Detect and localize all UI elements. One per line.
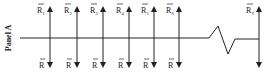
arrows <box>50 9 259 65</box>
top-label-6: R6 <box>166 4 175 16</box>
svg-text:2: 2 <box>70 11 72 16</box>
bottom-label-1: R <box>39 59 45 70</box>
timeline-diagram: Panel A R1 R2 R3 R4 R5 R6 RT R R R R R R <box>0 0 268 74</box>
svg-text:5: 5 <box>147 11 150 16</box>
svg-text:1: 1 <box>43 11 45 16</box>
top-label-4: R4 <box>116 4 125 16</box>
top-labels: R1 R2 R3 R4 R5 R6 RT <box>37 4 255 16</box>
top-label-1: R1 <box>37 4 45 16</box>
timeline-axis <box>20 26 259 54</box>
svg-text:4: 4 <box>122 11 125 16</box>
bottom-label-4: R <box>118 59 124 70</box>
svg-text:R: R <box>39 61 45 70</box>
svg-text:T: T <box>252 11 255 16</box>
svg-text:R: R <box>92 61 98 70</box>
top-label-5: R5 <box>141 4 150 16</box>
svg-text:R: R <box>118 61 124 70</box>
svg-text:R: R <box>168 61 174 70</box>
svg-text:R: R <box>143 61 149 70</box>
bottom-label-2: R <box>66 59 72 70</box>
top-label-3: R3 <box>90 4 99 16</box>
panel-label: Panel A <box>4 25 13 52</box>
top-label-T: RT <box>246 4 255 16</box>
svg-text:3: 3 <box>96 11 99 16</box>
bottom-label-5: R <box>143 59 149 70</box>
bottom-label-6: R <box>168 59 174 70</box>
top-label-2: R2 <box>64 4 72 16</box>
svg-text:6: 6 <box>172 11 175 16</box>
svg-text:R: R <box>66 61 72 70</box>
bottom-label-3: R <box>92 59 98 70</box>
